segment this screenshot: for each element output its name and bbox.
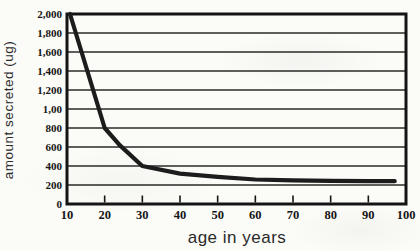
y-tick-label: 1,00 [43,103,63,115]
x-axis-title: age in years [188,228,287,247]
x-tick-label: 30 [136,208,149,222]
line-chart-svg: 02004006008001,001,2001,4001,6001,8002,0… [0,0,420,251]
x-tick-label: 60 [249,208,262,222]
x-tick-label: 40 [174,208,187,222]
y-tick-label: 1,200 [37,84,62,96]
y-tick-label: 200 [46,179,63,191]
x-axis-ticks [105,196,369,203]
y-tick-label: 1,800 [37,27,62,39]
x-axis-tick-labels: 102030405060708090100 [61,208,416,222]
x-tick-label: 10 [61,208,74,222]
x-tick-label: 100 [397,208,416,222]
y-tick-label: 1,600 [37,46,62,58]
chart: 02004006008001,001,2001,4001,6001,8002,0… [0,0,420,251]
y-axis-tick-labels: 02004006008001,001,2001,4001,6001,8002,0… [37,8,62,210]
gridlines [67,33,406,185]
y-tick-label: 800 [46,122,63,134]
y-axis-title: amount secreted (ug) [1,41,16,179]
x-tick-label: 50 [211,208,224,222]
x-tick-label: 90 [362,208,375,222]
data-line [70,14,395,181]
y-tick-label: 400 [46,160,63,172]
x-tick-label: 80 [324,208,337,222]
y-tick-label: 600 [46,141,63,153]
y-tick-label: 2,000 [37,8,62,20]
y-tick-label: 1,400 [37,65,62,77]
x-tick-label: 70 [287,208,300,222]
data-series [70,14,395,181]
x-tick-label: 20 [98,208,111,222]
